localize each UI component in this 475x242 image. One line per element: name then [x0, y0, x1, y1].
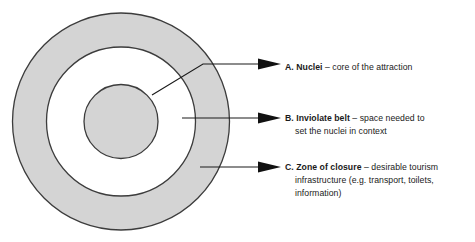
legend-line: set the nuclei in context	[285, 125, 425, 138]
legend-text: infrastructure (e.g. transport, toilets,	[295, 175, 434, 185]
legend-line: B. Inviolate belt – space needed to	[285, 112, 425, 125]
legend-key: C. Zone of closure	[285, 162, 362, 172]
legend-item-zone-of-closure: C. Zone of closure – desirable tourism i…	[285, 161, 438, 200]
legend-line: A. Nuclei – core of the attraction	[285, 61, 412, 74]
legend-text: – desirable tourism	[362, 162, 439, 172]
diagram-container: A. Nuclei – core of the attraction B. In…	[0, 0, 475, 242]
legend-text: – space needed to	[350, 113, 425, 123]
labels-layer: A. Nuclei – core of the attraction B. In…	[0, 0, 475, 242]
legend-item-inviolate-belt: B. Inviolate belt – space needed to set …	[285, 112, 425, 138]
legend-item-nuclei: A. Nuclei – core of the attraction	[285, 61, 412, 74]
legend-key: B. Inviolate belt	[285, 113, 350, 123]
legend-line: information)	[285, 187, 438, 200]
legend-line: infrastructure (e.g. transport, toilets,	[285, 174, 438, 187]
legend-key: A. Nuclei	[285, 62, 323, 72]
legend-text: set the nuclei in context	[295, 126, 387, 136]
legend-text: information)	[295, 188, 341, 198]
legend-line: C. Zone of closure – desirable tourism	[285, 161, 438, 174]
legend-text: – core of the attraction	[323, 62, 413, 72]
